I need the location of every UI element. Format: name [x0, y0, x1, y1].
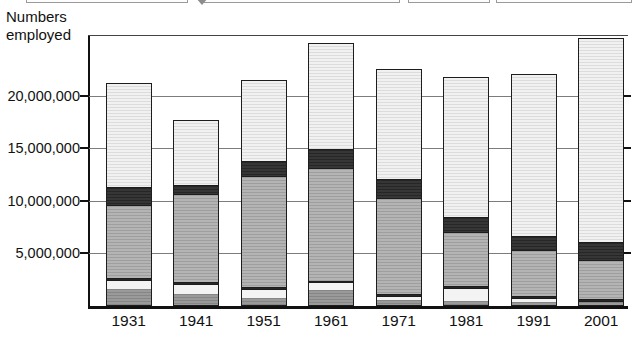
x-tick-label-1971: 1971 — [369, 312, 429, 330]
legend-box-1[interactable] — [26, 0, 188, 3]
bar-segment-manufacturing — [377, 198, 421, 294]
legend-box-4[interactable] — [496, 0, 632, 3]
bar-1951[interactable] — [241, 80, 287, 306]
y-tick-label: 10,000,000 — [7, 193, 80, 209]
x-tick-label-1981: 1981 — [436, 312, 496, 330]
bar-segment-agriculture — [377, 300, 421, 305]
bar-segment-mining-energy — [107, 280, 151, 289]
bar-segment-transport-utilities — [174, 185, 218, 194]
bar-segment-transport-utilities — [242, 161, 286, 176]
x-axis-line — [88, 306, 628, 309]
y-tick-label: 5,000,000 — [15, 245, 80, 261]
legend-box-2[interactable] — [200, 0, 400, 3]
down-triangle-icon — [196, 0, 208, 5]
bar-1961[interactable] — [308, 43, 354, 306]
bar-segment-manufacturing — [242, 176, 286, 287]
bar-segment-services — [242, 80, 286, 161]
bar-segment-mining-energy — [309, 282, 353, 289]
bar-segment-agriculture — [107, 289, 151, 305]
y-tick-mark — [80, 147, 89, 149]
bar-segment-transport-utilities — [579, 242, 623, 260]
bar-1991[interactable] — [511, 74, 557, 306]
y-axis-title: Numbers employed — [6, 8, 71, 43]
bar-segment-mining-energy — [174, 284, 218, 294]
bar-segment-manufacturing — [309, 168, 353, 280]
bar-segment-transport-utilities — [444, 217, 488, 232]
x-tick-label-1941: 1941 — [166, 312, 226, 330]
bar-segment-manufacturing — [174, 194, 218, 282]
bar-1981[interactable] — [443, 77, 489, 306]
y-tick-mark — [80, 252, 89, 254]
bar-1971[interactable] — [376, 69, 422, 306]
bar-segment-transport-utilities — [309, 149, 353, 168]
bar-segment-services — [444, 77, 488, 217]
bar-1941[interactable] — [173, 120, 219, 306]
bar-segment-services — [174, 120, 218, 184]
legend-strip-cropped — [0, 0, 634, 16]
bar-segment-manufacturing — [512, 250, 556, 296]
bar-segment-transport-utilities — [107, 187, 151, 205]
y-tick-label: 15,000,000 — [7, 140, 80, 156]
bar-segment-manufacturing — [107, 205, 151, 277]
bar-segment-mining-energy — [242, 289, 286, 298]
bar-segment-agriculture — [242, 298, 286, 305]
x-tick-label-1991: 1991 — [504, 312, 564, 330]
bar-segment-services — [377, 69, 421, 179]
bar-segment-services — [107, 83, 151, 187]
chart-page: Numbers employed 5,000,00010,000,00015,0… — [0, 0, 634, 352]
bar-segment-agriculture — [512, 302, 556, 305]
bar-segment-manufacturing — [444, 232, 488, 287]
bar-segment-services — [579, 38, 623, 242]
plot-area — [88, 35, 628, 308]
gridline-top — [88, 35, 628, 36]
y-axis-line — [88, 35, 90, 308]
y-tick-mark — [80, 200, 89, 202]
bar-segment-agriculture — [309, 290, 353, 305]
bar-segment-agriculture — [579, 302, 623, 305]
bar-segment-manufacturing — [579, 260, 623, 299]
bar-segment-agriculture — [174, 294, 218, 305]
bar-2001[interactable] — [578, 38, 624, 306]
bar-1931[interactable] — [106, 83, 152, 306]
y-tick-label: 20,000,000 — [7, 88, 80, 104]
legend-box-3[interactable] — [408, 0, 490, 3]
x-tick-label-1931: 1931 — [99, 312, 159, 330]
y-tick-mark — [80, 95, 89, 97]
x-tick-label-2001: 2001 — [571, 312, 631, 330]
bar-segment-transport-utilities — [512, 236, 556, 250]
bar-segment-agriculture — [444, 301, 488, 305]
bar-segment-services — [309, 43, 353, 149]
x-tick-label-1951: 1951 — [234, 312, 294, 330]
bar-segment-services — [512, 74, 556, 236]
bar-segment-transport-utilities — [377, 179, 421, 198]
x-tick-label-1961: 1961 — [301, 312, 361, 330]
bar-segment-mining-energy — [444, 288, 488, 301]
